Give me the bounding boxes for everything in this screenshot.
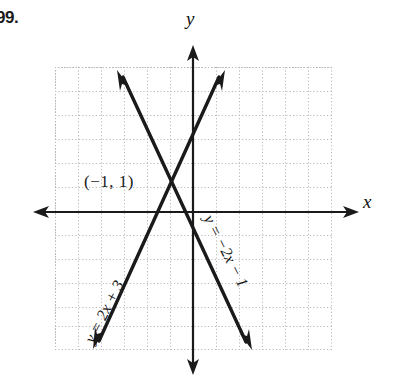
- graph-drawing: [0, 0, 395, 386]
- line-y-equals-minus-2x-minus-1: [117, 70, 252, 350]
- y-axis: [187, 45, 199, 375]
- x-axis: [33, 206, 359, 218]
- x-axis-label: x: [363, 191, 371, 213]
- y-axis-label: y: [186, 8, 194, 30]
- intersection-point-label: (−1, 1): [84, 172, 134, 192]
- graph-figure: 99.: [0, 0, 395, 386]
